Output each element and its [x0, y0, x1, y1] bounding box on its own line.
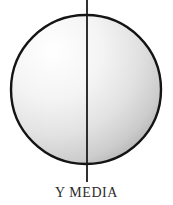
diagram-canvas: Y MEDIA: [0, 0, 173, 205]
sphere-diagram-svg: [0, 0, 173, 205]
figure-caption: Y MEDIA: [0, 185, 173, 201]
shaded-sphere: [11, 15, 161, 164]
